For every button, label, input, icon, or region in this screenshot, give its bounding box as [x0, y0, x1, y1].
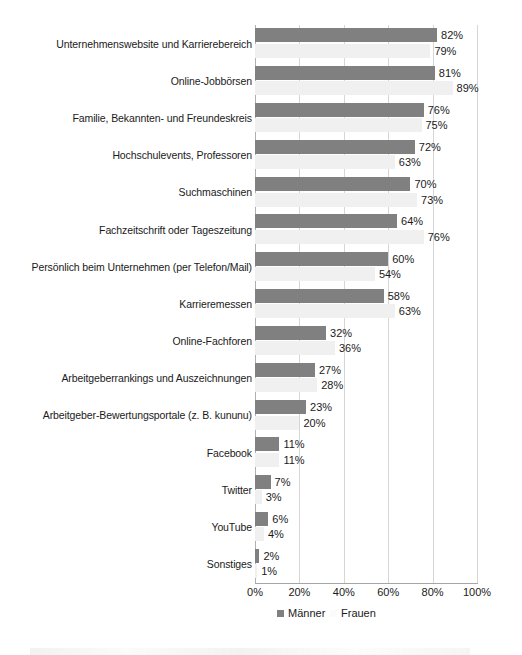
chart-category-row: Hochschulevents, Professoren72%63% [0, 137, 522, 174]
bar-rect [255, 304, 395, 318]
category-label: Online-Jobbörsen [8, 75, 252, 87]
category-bar-group: 11%11% [255, 434, 522, 471]
bar-rect [255, 140, 415, 154]
bar-männer[interactable]: 72% [255, 140, 522, 154]
category-bar-group: 27%28% [255, 360, 522, 397]
bar-rect [255, 214, 397, 228]
category-label: YouTube [8, 521, 252, 533]
bar-rect [255, 437, 279, 451]
chart-category-row: Online-Jobbörsen81%89% [0, 62, 522, 99]
bar-frauen[interactable]: 76% [255, 230, 522, 244]
chart-category-row: Arbeitgeberrankings und Auszeichnungen27… [0, 360, 522, 397]
bar-männer[interactable]: 11% [255, 437, 522, 451]
bar-frauen[interactable]: 11% [255, 453, 522, 467]
bar-frauen[interactable]: 36% [255, 341, 522, 355]
chart-category-row: Suchmaschinen70%73% [0, 174, 522, 211]
bar-rect [255, 66, 435, 80]
bar-rect [255, 193, 417, 207]
bar-rect [255, 512, 268, 526]
bar-frauen[interactable]: 3% [255, 490, 522, 504]
bar-rect [255, 400, 306, 414]
bar-value-label: 28% [317, 379, 343, 391]
legend-item-männer[interactable]: Männer [277, 607, 325, 619]
bar-männer[interactable]: 81% [255, 66, 522, 80]
category-bar-group: 23%20% [255, 397, 522, 434]
bar-value-label: 63% [395, 305, 421, 317]
category-label: Karrieremessen [8, 298, 252, 310]
bar-value-label: 23% [306, 401, 332, 413]
bar-männer[interactable]: 70% [255, 177, 522, 191]
bar-männer[interactable]: 82% [255, 28, 522, 42]
chart-legend: MännerFrauen [0, 607, 522, 627]
bar-frauen[interactable]: 79% [255, 44, 522, 58]
bar-rect [255, 416, 299, 430]
bar-männer[interactable]: 32% [255, 326, 522, 340]
category-bar-group: 7%3% [255, 471, 522, 508]
bar-rect [255, 155, 395, 169]
bar-rect [255, 475, 271, 489]
bar-rect [255, 28, 437, 42]
bar-value-label: 64% [397, 215, 423, 227]
bar-frauen[interactable]: 28% [255, 378, 522, 392]
bar-männer[interactable]: 60% [255, 252, 522, 266]
category-label: Arbeitgeber-Bewertungsportale (z. B. kun… [8, 409, 252, 421]
bar-value-label: 60% [388, 253, 414, 265]
bar-value-label: 2% [259, 550, 279, 562]
bar-frauen[interactable]: 1% [255, 564, 522, 578]
category-label: Persönlich beim Unternehmen (per Telefon… [8, 261, 252, 273]
bar-frauen[interactable]: 73% [255, 193, 522, 207]
category-label: Hochschulevents, Professoren [8, 149, 252, 161]
category-label: Online-Fachforen [8, 335, 252, 347]
bar-frauen[interactable]: 63% [255, 155, 522, 169]
bar-frauen[interactable]: 20% [255, 416, 522, 430]
bar-frauen[interactable]: 75% [255, 118, 522, 132]
chart-category-row: Fachzeitschrift oder Tageszeitung64%76% [0, 211, 522, 248]
category-bar-group: 72%63% [255, 137, 522, 174]
category-label: Unternehmenswebsite und Karrierebereich [8, 37, 252, 49]
bar-value-label: 82% [437, 29, 463, 41]
bar-value-label: 27% [315, 364, 341, 376]
bar-männer[interactable]: 64% [255, 214, 522, 228]
bar-rect [255, 118, 422, 132]
legend-item-frauen[interactable]: Frauen [330, 607, 376, 619]
bar-männer[interactable]: 7% [255, 475, 522, 489]
bar-männer[interactable]: 27% [255, 363, 522, 377]
chart-category-row: Arbeitgeber-Bewertungsportale (z. B. kun… [0, 397, 522, 434]
category-bar-group: 81%89% [255, 62, 522, 99]
bar-männer[interactable]: 58% [255, 289, 522, 303]
chart-category-row: Sonstiges2%1% [0, 546, 522, 583]
bar-männer[interactable]: 6% [255, 512, 522, 526]
chart-category-row: Persönlich beim Unternehmen (per Telefon… [0, 248, 522, 285]
legend-label: Männer [288, 607, 325, 619]
chart-category-row: YouTube6%4% [0, 508, 522, 545]
bar-value-label: 11% [279, 454, 304, 466]
category-bar-group: 70%73% [255, 174, 522, 211]
bar-value-label: 76% [424, 231, 450, 243]
bar-value-label: 3% [262, 491, 282, 503]
bar-value-label: 36% [335, 342, 361, 354]
bar-frauen[interactable]: 63% [255, 304, 522, 318]
bar-value-label: 32% [326, 327, 352, 339]
legend-swatch-icon [330, 610, 337, 617]
bar-rect [255, 44, 430, 58]
category-label: Facebook [8, 446, 252, 458]
bar-value-label: 4% [264, 528, 284, 540]
bar-value-label: 72% [415, 141, 441, 153]
bar-value-label: 6% [268, 513, 288, 525]
bar-frauen[interactable]: 54% [255, 267, 522, 281]
bar-value-label: 54% [375, 268, 401, 280]
bar-value-label: 81% [435, 67, 461, 79]
category-label: Familie, Bekannten- und Freundeskreis [8, 112, 252, 124]
bar-rect [255, 230, 424, 244]
bar-rect [255, 490, 262, 504]
bar-männer[interactable]: 23% [255, 400, 522, 414]
bar-value-label: 63% [395, 156, 421, 168]
bar-frauen[interactable]: 89% [255, 81, 522, 95]
bar-männer[interactable]: 76% [255, 103, 522, 117]
bar-rect [255, 453, 279, 467]
chart-plot-area: Unternehmenswebsite und Karrierebereich8… [0, 25, 522, 583]
bar-rect [255, 103, 424, 117]
bar-frauen[interactable]: 4% [255, 527, 522, 541]
legend-label: Frauen [341, 607, 376, 619]
bar-männer[interactable]: 2% [255, 549, 522, 563]
